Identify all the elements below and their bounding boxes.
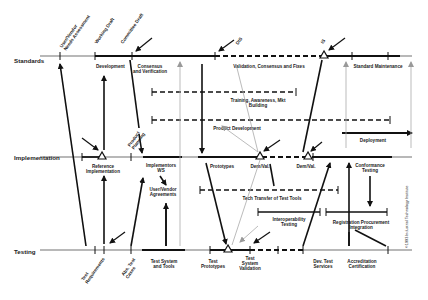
training-bar [152,88,296,96]
label-registration-2: Integration [349,225,373,230]
milestone-working-draft: Working Draft [94,17,116,45]
copyright-notice: ©1993 Industrial Technology Institute [405,186,409,248]
milestone-user-vendor: User/Vendor Needs Assessment [59,11,92,51]
demval1-arrow [264,140,280,151]
milestone-committee-draft: Committee Draft [120,12,145,45]
svg-text:Working Draft: Working Draft [94,17,116,45]
label-interop-2: Testing [281,222,297,227]
svg-text:IS: IS [320,38,327,44]
reference-impl-arrow [82,138,98,150]
label-implementors-2: WS [157,168,164,173]
standards-process-diagram: Standards Implementation Testing User/Ve… [0,0,428,300]
label-abs-test-cases: Abs. Test Cases [121,257,141,280]
label-reference-impl-2: Implementation [86,169,120,174]
tech-transfer-bar [200,186,338,194]
label-test-system-tools-2: and Tools [153,264,175,269]
product-development-bar [152,116,390,124]
label-user-vendor-agreements-2: Agreements [150,192,177,197]
label-tech-transfer: Tech Transfer of Test Tools [243,196,302,201]
is-milestone-triangle [320,51,328,58]
label-test-requirements: Test Requirements [80,253,106,284]
row-label-implementation: Implementation [14,154,60,161]
test-requirements-arrow [110,232,125,243]
label-conformance-2: Testing [362,168,378,173]
demval-triangle-2 [304,152,312,159]
connector-arrows [60,60,386,246]
label-demval-2: Dem/Val. [296,164,315,169]
label-development: Development [96,64,125,69]
label-test-prototypes-2: Prototypes [201,264,225,269]
label-prototypes: Prototypes [210,164,234,169]
label-maintenance: Standard Maintenance [353,64,402,69]
label-product-development: Product Development [213,126,261,131]
testing-timeline [40,245,412,254]
label-tsv-3: Validation [239,266,261,271]
dis-arrow [219,40,234,51]
registration-bar [326,208,387,216]
svg-text:Requirements: Requirements [84,256,106,284]
is-arrow [329,38,345,50]
test-prototypes-triangle [224,245,232,252]
svg-text:DIS: DIS [235,36,243,45]
reference-implementation-triangle [98,152,106,159]
label-dev-test-services-2: Services [314,264,333,269]
label-validation: Validation, Consensus and Fixes [233,64,305,69]
label-accreditation-2: Certification [349,264,376,269]
row-label-testing: Testing [14,248,36,255]
row-label-standards: Standards [14,57,45,64]
label-consensus-2: and Verification [133,69,167,74]
committee-draft-arrow [136,38,152,51]
milestone-is: IS [320,38,327,44]
demval2-arrow [311,142,322,151]
standards-timeline [40,51,412,60]
label-product-planning: Product Planning [127,129,146,151]
svg-text:©1993 Industrial Technology In: ©1993 Industrial Technology Institute [405,186,409,248]
interoperability-bar [258,208,320,216]
test-system-validation-arrow [254,232,270,243]
label-training-2: Building [249,103,268,108]
milestone-dis: DIS [235,36,243,45]
label-deployment: Deployment [360,138,387,143]
demval-triangle-1 [256,152,264,159]
svg-text:Committee Draft: Committee Draft [120,12,145,45]
label-demval-1: Dem/Val. [250,164,269,169]
implementation-timeline [40,152,412,161]
